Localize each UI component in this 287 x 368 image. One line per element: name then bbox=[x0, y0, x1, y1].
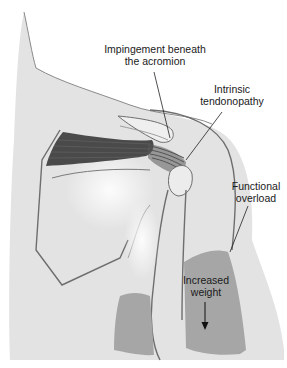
increased-weight-label: Increased weight bbox=[176, 274, 236, 298]
functional-label-line1: Functional bbox=[226, 180, 286, 192]
functional-label-line2: overload bbox=[226, 192, 286, 204]
impingement-label-line1: Impingement beneath bbox=[100, 43, 210, 55]
weight-region-torso bbox=[114, 293, 154, 355]
intrinsic-tendonopathy-label: Intrinsic tendonopathy bbox=[196, 83, 268, 107]
functional-overload-label: Functional overload bbox=[226, 180, 286, 204]
weight-label-line2: weight bbox=[176, 286, 236, 298]
weight-label-line1: Increased bbox=[176, 274, 236, 286]
axilla-glow bbox=[124, 200, 160, 280]
intrinsic-label-line1: Intrinsic bbox=[196, 83, 268, 95]
intrinsic-label-line2: tendonopathy bbox=[196, 95, 268, 107]
impingement-label-line2: the acromion bbox=[100, 55, 210, 67]
impingement-label: Impingement beneath the acromion bbox=[100, 43, 210, 67]
